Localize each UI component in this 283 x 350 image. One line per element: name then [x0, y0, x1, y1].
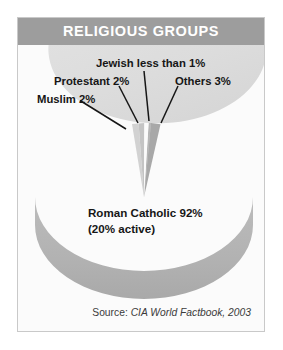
center-label-line-1: Roman Catholic 92% [88, 205, 203, 221]
card-title-bar: RELIGIOUS GROUPS [18, 18, 264, 45]
center-label-line-2: (20% active) [88, 221, 203, 237]
pie-chart-graphic [18, 45, 264, 331]
source-prefix: Source: [92, 307, 130, 318]
callout-label-protestant: Protestant 2% [54, 75, 129, 87]
page-title: RELIGIOUS GROUPS [63, 24, 219, 39]
callout-label-muslim: Muslim 2% [37, 93, 95, 105]
callout-label-jewish: Jewish less than 1% [96, 57, 205, 69]
religious-groups-card: RELIGIOUS GROUPS [17, 17, 265, 332]
callout-label-others: Others 3% [175, 75, 231, 87]
pie-center-label: Roman Catholic 92% (20% active) [88, 205, 203, 238]
source-attribution: Source: CIA World Factbook, 2003 [92, 307, 251, 318]
pie-chart-plot-area: Jewish less than 1% Protestant 2% Muslim… [18, 45, 264, 331]
source-reference: CIA World Factbook, 2003 [131, 307, 251, 318]
